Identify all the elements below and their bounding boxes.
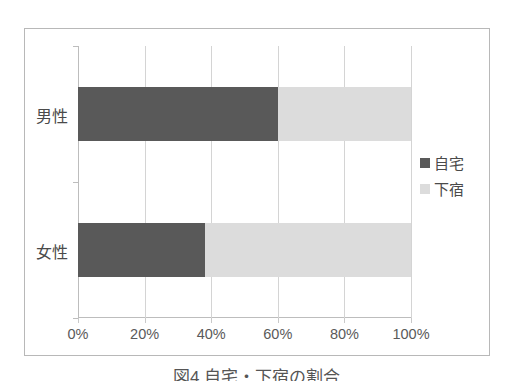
legend-swatch-dark xyxy=(420,158,430,168)
x-axis-line xyxy=(78,317,411,318)
legend-item: 下宿 xyxy=(420,176,490,202)
chart-legend: 自宅下宿 xyxy=(420,150,490,202)
y-axis-category-label: 男性 xyxy=(0,103,68,127)
legend-label: 下宿 xyxy=(434,182,464,197)
x-axis-tick-label: 20% xyxy=(130,326,159,342)
x-axis-tick-mark xyxy=(78,318,79,323)
stacked-bar-chart: 0%20%40%60%80%100% 男性女性 自宅下宿 xyxy=(0,0,513,381)
bar-segment xyxy=(78,223,205,277)
y-axis-tick-mark xyxy=(73,46,78,47)
legend-label: 自宅 xyxy=(434,156,464,171)
bar-segment xyxy=(78,87,278,141)
bar-segment xyxy=(278,87,411,141)
x-axis-tick-label: 40% xyxy=(197,326,226,342)
bar-row xyxy=(78,223,411,277)
x-axis-tick-mark xyxy=(278,318,279,323)
y-axis-tick-mark xyxy=(73,318,78,319)
gridline xyxy=(411,46,412,318)
legend-swatch-light xyxy=(420,184,430,194)
x-axis-tick-label: 0% xyxy=(68,326,89,342)
plot-area xyxy=(78,46,411,318)
x-axis-tick-mark xyxy=(145,318,146,323)
x-axis-tick-mark xyxy=(211,318,212,323)
x-axis-tick-label: 60% xyxy=(263,326,292,342)
bar-segment xyxy=(205,223,411,277)
figure-caption: 図4 自宅・下宿の割合 xyxy=(0,368,513,381)
bar-row xyxy=(78,87,411,141)
legend-item: 自宅 xyxy=(420,150,490,176)
x-axis-tick-mark xyxy=(344,318,345,323)
y-axis-category-label: 女性 xyxy=(0,239,68,263)
x-axis-tick-label: 100% xyxy=(392,326,429,342)
x-axis-tick-mark xyxy=(411,318,412,323)
x-axis-tick-label: 80% xyxy=(330,326,359,342)
y-axis-tick-mark xyxy=(73,182,78,183)
